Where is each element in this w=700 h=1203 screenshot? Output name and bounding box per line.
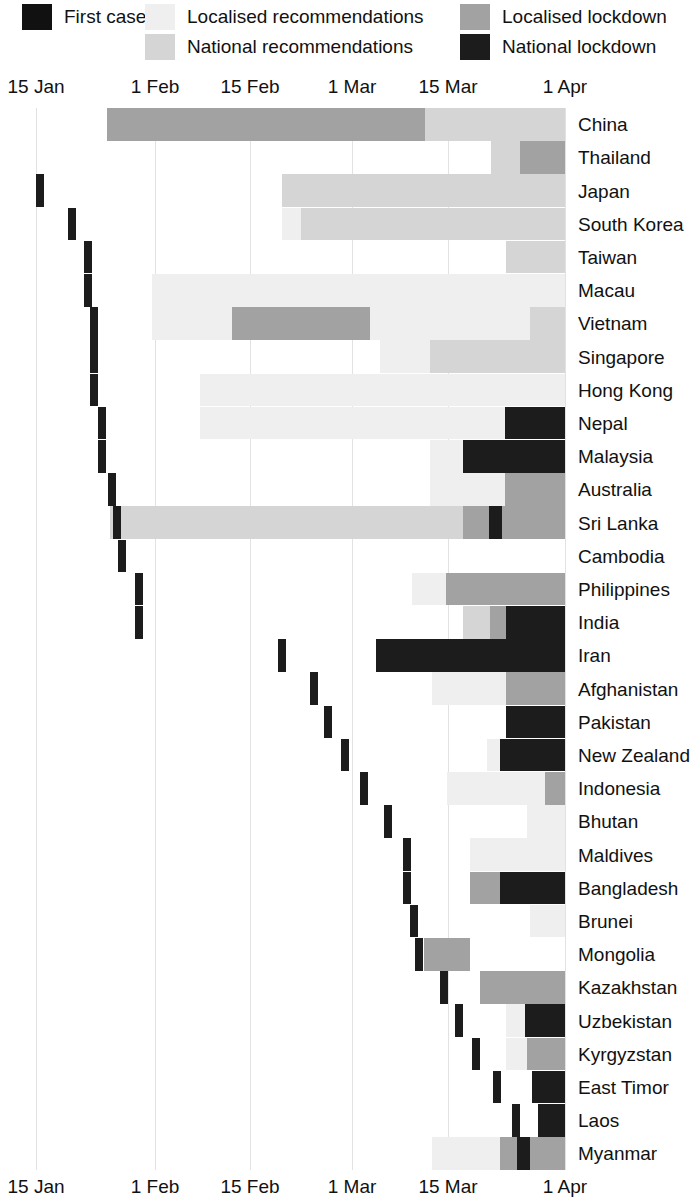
first-case-marker[interactable]: [341, 739, 349, 772]
timeline-segment-national-lockdown[interactable]: [506, 606, 565, 639]
timeline-segment-national-lockdown[interactable]: [463, 440, 565, 473]
first-case-marker[interactable]: [493, 1071, 501, 1104]
timeline-row[interactable]: Hong Kong: [0, 374, 700, 407]
timeline-row[interactable]: Nepal: [0, 407, 700, 440]
timeline-segment-localised-recommendations[interactable]: [506, 1004, 525, 1037]
timeline-segment-national-recommendations[interactable]: [301, 208, 565, 241]
timeline-segment-national-lockdown[interactable]: [500, 739, 565, 772]
first-case-marker[interactable]: [403, 838, 411, 871]
timeline-segment-localised-recommendations[interactable]: [447, 772, 545, 805]
timeline-segment-localised-lockdown[interactable]: [500, 1137, 517, 1170]
timeline-segment-localised-lockdown[interactable]: [530, 1137, 565, 1170]
timeline-segment-national-recommendations[interactable]: [282, 174, 565, 207]
timeline-row[interactable]: Cambodia: [0, 540, 700, 573]
timeline-row[interactable]: Thailand: [0, 141, 700, 174]
timeline-segment-localised-lockdown[interactable]: [527, 1038, 565, 1071]
timeline-segment-localised-recommendations[interactable]: [380, 340, 430, 373]
timeline-row[interactable]: Singapore: [0, 340, 700, 373]
timeline-row[interactable]: Kazakhstan: [0, 971, 700, 1004]
timeline-row[interactable]: Afghanistan: [0, 672, 700, 705]
timeline-row[interactable]: Pakistan: [0, 706, 700, 739]
first-case-marker[interactable]: [415, 938, 423, 971]
timeline-row[interactable]: Macau: [0, 274, 700, 307]
timeline-segment-localised-recommendations[interactable]: [530, 905, 565, 938]
timeline-row[interactable]: Mongolia: [0, 938, 700, 971]
timeline-row[interactable]: India: [0, 606, 700, 639]
timeline-row[interactable]: Malaysia: [0, 440, 700, 473]
timeline-row[interactable]: Brunei: [0, 905, 700, 938]
timeline-segment-national-lockdown[interactable]: [532, 1071, 565, 1104]
first-case-marker[interactable]: [278, 639, 286, 672]
first-case-marker[interactable]: [98, 407, 106, 440]
timeline-row[interactable]: New Zealand: [0, 739, 700, 772]
timeline-segment-localised-recommendations[interactable]: [432, 672, 506, 705]
timeline-row[interactable]: Uzbekistan: [0, 1004, 700, 1037]
timeline-segment-localised-recommendations[interactable]: [506, 1038, 527, 1071]
timeline-segment-localised-lockdown[interactable]: [470, 872, 500, 905]
timeline-row[interactable]: Indonesia: [0, 772, 700, 805]
timeline-row[interactable]: Sri Lanka: [0, 506, 700, 539]
timeline-segment-national-recommendations[interactable]: [463, 606, 490, 639]
first-case-marker[interactable]: [108, 473, 116, 506]
first-case-marker[interactable]: [384, 805, 392, 838]
timeline-segment-national-recommendations[interactable]: [425, 108, 565, 141]
first-case-marker[interactable]: [135, 573, 143, 606]
timeline-row[interactable]: East Timor: [0, 1071, 700, 1104]
first-case-marker[interactable]: [118, 540, 126, 573]
timeline-segment-localised-lockdown[interactable]: [424, 938, 470, 971]
timeline-row[interactable]: Vietnam: [0, 307, 700, 340]
timeline-row[interactable]: Taiwan: [0, 241, 700, 274]
timeline-segment-localised-lockdown[interactable]: [545, 772, 565, 805]
first-case-marker[interactable]: [135, 606, 143, 639]
timeline-segment-national-lockdown[interactable]: [489, 506, 502, 539]
first-case-marker[interactable]: [403, 872, 411, 905]
first-case-marker[interactable]: [90, 340, 98, 373]
first-case-marker[interactable]: [113, 506, 121, 539]
timeline-segment-localised-lockdown[interactable]: [490, 606, 506, 639]
timeline-segment-national-lockdown[interactable]: [500, 872, 565, 905]
timeline-segment-localised-recommendations[interactable]: [432, 1137, 500, 1170]
timeline-row[interactable]: Maldives: [0, 838, 700, 871]
timeline-segment-localised-recommendations[interactable]: [200, 374, 565, 407]
timeline-segment-localised-recommendations[interactable]: [430, 473, 505, 506]
timeline-segment-national-lockdown[interactable]: [538, 1104, 565, 1137]
timeline-row[interactable]: Australia: [0, 473, 700, 506]
first-case-marker[interactable]: [36, 174, 44, 207]
timeline-segment-national-lockdown[interactable]: [376, 639, 565, 672]
timeline-row[interactable]: South Korea: [0, 208, 700, 241]
first-case-marker[interactable]: [410, 905, 418, 938]
timeline-segment-localised-recommendations[interactable]: [430, 440, 463, 473]
timeline-row[interactable]: Japan: [0, 174, 700, 207]
timeline-row[interactable]: Iran: [0, 639, 700, 672]
timeline-row[interactable]: Myanmar: [0, 1137, 700, 1170]
first-case-marker[interactable]: [98, 440, 106, 473]
first-case-marker[interactable]: [324, 706, 332, 739]
first-case-marker[interactable]: [84, 274, 92, 307]
timeline-segment-national-recommendations[interactable]: [110, 506, 463, 539]
timeline-segment-national-recommendations[interactable]: [506, 241, 565, 274]
timeline-segment-localised-recommendations[interactable]: [370, 307, 530, 340]
timeline-segment-national-lockdown[interactable]: [517, 1137, 530, 1170]
timeline-segment-localised-recommendations[interactable]: [412, 573, 446, 606]
timeline-segment-national-lockdown[interactable]: [506, 706, 565, 739]
timeline-segment-national-lockdown[interactable]: [505, 407, 565, 440]
timeline-row[interactable]: Bangladesh: [0, 872, 700, 905]
timeline-row[interactable]: Philippines: [0, 573, 700, 606]
first-case-marker[interactable]: [84, 241, 92, 274]
timeline-row[interactable]: Bhutan: [0, 805, 700, 838]
timeline-segment-national-recommendations[interactable]: [491, 141, 520, 174]
timeline-segment-localised-recommendations[interactable]: [200, 407, 505, 440]
first-case-marker[interactable]: [68, 208, 76, 241]
timeline-segment-localised-lockdown[interactable]: [506, 672, 565, 705]
first-case-marker[interactable]: [472, 1038, 480, 1071]
timeline-segment-localised-recommendations[interactable]: [470, 838, 565, 871]
timeline-segment-localised-lockdown[interactable]: [463, 506, 489, 539]
timeline-segment-localised-lockdown[interactable]: [480, 971, 565, 1004]
timeline-segment-localised-lockdown[interactable]: [446, 573, 565, 606]
timeline-segment-national-recommendations[interactable]: [530, 307, 565, 340]
timeline-segment-localised-lockdown[interactable]: [107, 108, 425, 141]
timeline-segment-national-recommendations[interactable]: [430, 340, 565, 373]
first-case-marker[interactable]: [455, 1004, 463, 1037]
timeline-segment-localised-recommendations[interactable]: [527, 805, 565, 838]
timeline-segment-localised-recommendations[interactable]: [282, 208, 301, 241]
